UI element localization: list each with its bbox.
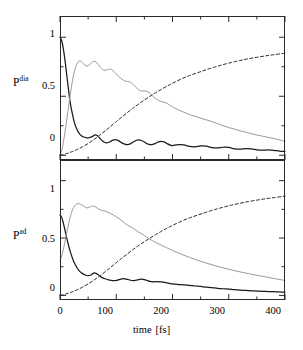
panel-top-ytick-05: 0.5 — [22, 80, 55, 91]
panel-top-ytick-1: 1 — [22, 28, 55, 39]
xtick-200: 200 — [145, 305, 177, 316]
panel-bottom-ylabel-base: P — [13, 229, 20, 241]
xaxis-title-main: time — [133, 324, 152, 335]
panel-bottom-ytick-0: 0 — [22, 282, 55, 293]
xaxis-title-unit: [fs] — [156, 324, 171, 335]
xtick-300: 300 — [201, 305, 233, 316]
panel-bottom-frame — [60, 160, 285, 300]
panel-top-frame — [60, 16, 285, 160]
panel-bottom-ytick-1: 1 — [22, 183, 55, 194]
panel-bottom-ytick-05: 0.5 — [22, 233, 55, 244]
xtick-400: 400 — [257, 305, 289, 316]
panel-top — [60, 16, 285, 160]
panel-top-ylabel-base: P — [13, 76, 20, 88]
xtick-0: 0 — [44, 305, 76, 316]
xtick-100: 100 — [89, 305, 121, 316]
panel-bottom — [60, 160, 285, 300]
xaxis-title: time[fs] — [0, 324, 303, 335]
figure-canvas: Pdia 1 0.5 0 Pad 1 0.5 0 0 100 200 300 4… — [0, 0, 303, 350]
panel-top-ytick-0: 0 — [22, 132, 55, 143]
